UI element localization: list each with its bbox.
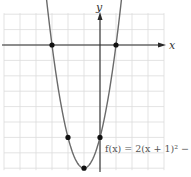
x-axis-arrow-icon [158, 43, 166, 48]
parabola-chart: x y f(x) = 2(x + 1)² − 8 [0, 0, 191, 177]
data-point [65, 135, 70, 140]
function-equation-label: f(x) = 2(x + 1)² − 8 [105, 143, 191, 154]
data-point [97, 135, 102, 140]
y-axis-label: y [95, 1, 103, 14]
x-axis-label: x [169, 39, 176, 52]
data-point [81, 166, 86, 171]
data-point [49, 42, 54, 47]
data-point [113, 42, 118, 47]
